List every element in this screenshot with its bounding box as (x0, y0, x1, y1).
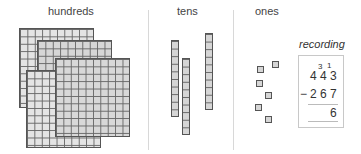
result-ones: 6 (330, 106, 337, 120)
sum-line (308, 104, 338, 105)
hundreds-label: hundreds (48, 5, 94, 17)
minus-sign: − (300, 87, 307, 101)
minuend-tens: 4 (320, 69, 327, 83)
divider-hundreds-tens (148, 10, 149, 150)
one-cube (272, 61, 279, 68)
tens-label: tens (177, 5, 198, 17)
subtrahend-tens: 6 (320, 87, 327, 101)
subtrahend-ones: 7 (330, 87, 337, 101)
ones-label: ones (255, 5, 279, 17)
one-cube (265, 92, 272, 99)
result-line (308, 121, 338, 122)
recording-title: recording (299, 38, 345, 50)
minuend-ones: 3 (330, 69, 337, 83)
subtrahend-hundreds: 2 (310, 87, 317, 101)
one-cube (256, 80, 263, 87)
ten-rod (182, 58, 190, 135)
one-cube (265, 116, 272, 123)
minuend-hundreds: 4 (310, 69, 317, 83)
one-cube (255, 104, 262, 111)
one-cube (257, 66, 264, 73)
ten-rod (205, 33, 213, 110)
ten-rod (171, 40, 179, 117)
divider-tens-ones (233, 10, 234, 150)
place-value-diagram: hundreds tens ones recording 3 1 4 4 3 −… (0, 0, 361, 154)
hundred-flat (55, 58, 130, 137)
